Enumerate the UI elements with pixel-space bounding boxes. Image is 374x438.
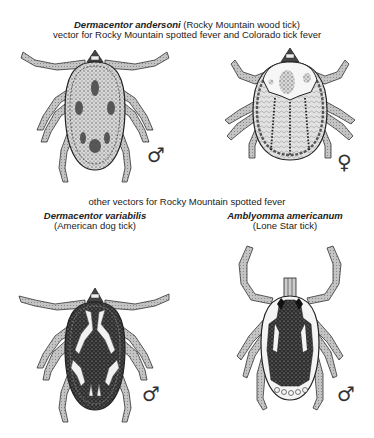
tick-illustration-d-variabilis-male [15,280,175,430]
species-label-d-variabilis: Dermacentor variabilis (American dog tic… [30,211,160,231]
female-symbol: ♀ [337,152,352,172]
section-title: other vectors for Rocky Mountain spotted… [0,197,374,207]
common-name: (Lone Star tick) [220,221,350,231]
male-symbol: ♂ [337,384,355,404]
species-label-a-americanum: Amblyomma americanum (Lone Star tick) [220,211,350,231]
male-symbol: ♂ [142,384,160,404]
male-symbol: ♂ [147,145,165,165]
common-name: (American dog tick) [30,221,160,231]
